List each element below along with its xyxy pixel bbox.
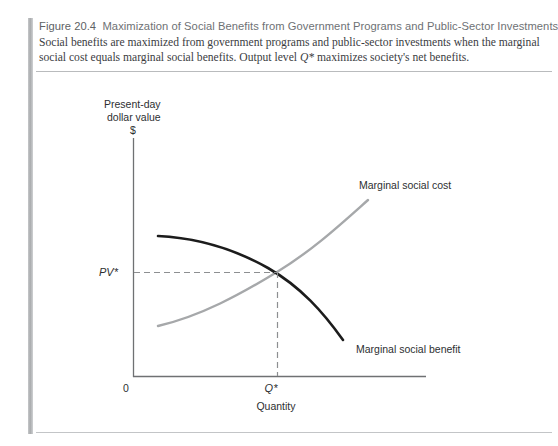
y-axis-label-line2: dollar value (107, 111, 161, 123)
left-margin-rule (28, 18, 33, 434)
chart-svg: Present-day dollar value $ PV* 0 Q* Quan… (36, 72, 552, 432)
y-axis-label-line1: Present-day (104, 98, 161, 110)
figure-caption: Social benefits are maximized from gover… (39, 36, 551, 65)
figure-title-text: Maximization of Social Benefits from Gov… (102, 20, 558, 32)
marginal-social-cost-curve (158, 200, 368, 326)
figure-header: Figure 20.4 Maximization of Social Benef… (36, 17, 552, 70)
y-axis-label-currency: $ (130, 124, 136, 136)
q-star-label: Q* (265, 382, 279, 394)
marginal-social-cost-label: Marginal social cost (359, 179, 451, 191)
figure-caption-part2: maximizes society's net benefits. (314, 51, 469, 64)
footer-divider (36, 432, 552, 433)
pv-star-label: PV* (99, 266, 119, 278)
figure-title: Figure 20.4 Maximization of Social Benef… (39, 19, 552, 34)
figure-caption-qstar: Q* (300, 51, 314, 64)
marginal-social-benefit-label: Marginal social benefit (356, 343, 461, 355)
x-axis-title: Quantity (256, 400, 296, 412)
chart-plot-area: Present-day dollar value $ PV* 0 Q* Quan… (36, 72, 552, 432)
origin-label: 0 (123, 382, 129, 394)
figure-number: Figure 20.4 (39, 20, 96, 32)
figure-page: Figure 20.4 Maximization of Social Benef… (0, 0, 558, 446)
